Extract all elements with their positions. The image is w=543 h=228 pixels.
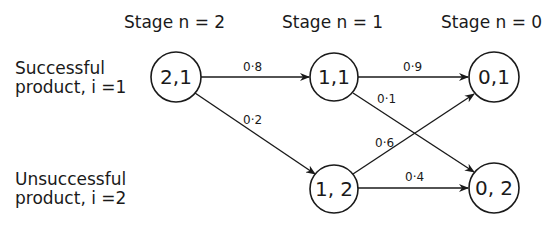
edge-label-0-6: 0·6 (375, 136, 394, 150)
edge-label-0-4: 0·4 (405, 170, 424, 184)
edge-label-0-9: 0·9 (403, 60, 422, 74)
node-label-2-1: 2,1 (160, 65, 192, 89)
edge-2-1-to-1-2 (195, 93, 315, 174)
node-label-1-2: 1, 2 (315, 177, 353, 201)
edge-label-0-1: 0·1 (377, 92, 396, 106)
edge-label-0-2: 0·2 (243, 113, 262, 127)
edge-1-2-to-0-1 (353, 94, 474, 174)
edge-1-1-to-0-2 (353, 93, 474, 172)
decision-tree-diagram: 0·8 0·2 0·9 0·1 0·6 0·4 2,1 1,1 1, 2 0,1… (0, 0, 543, 228)
node-label-0-1: 0,1 (478, 65, 510, 89)
node-label-0-2: 0, 2 (475, 176, 513, 200)
edge-label-0-8: 0·8 (243, 60, 262, 74)
node-label-1-1: 1,1 (318, 65, 350, 89)
